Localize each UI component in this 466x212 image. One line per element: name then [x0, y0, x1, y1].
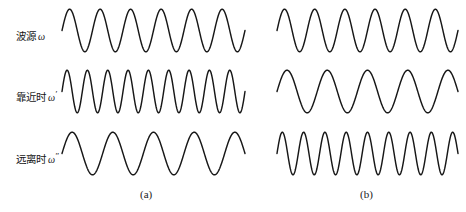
row-label-receding-text: 远离时	[16, 153, 47, 165]
row-label-approaching-symbol: ω′	[47, 92, 58, 103]
caption-b: (b)	[360, 188, 373, 200]
prime-glyph: ″	[55, 151, 59, 161]
row-label-receding: 远离时ω″	[16, 151, 59, 166]
prime-glyph: ′	[55, 89, 57, 99]
row-label-receding-symbol: ω″	[47, 154, 60, 165]
wave-trace-a2	[62, 69, 245, 114]
caption-a: (a)	[140, 188, 152, 200]
row-label-approaching-text: 靠近时	[16, 91, 47, 103]
wave-trace-a3	[62, 131, 245, 176]
row-label-source-text: 波源	[16, 30, 36, 42]
row-label-source-symbol: ω	[36, 31, 45, 42]
omega-glyph: ω	[38, 31, 45, 42]
wave-trace-b3	[277, 131, 458, 176]
wave-trace-a1	[62, 8, 245, 53]
row-label-source: 波源ω	[16, 28, 45, 43]
wave-trace-b1	[277, 8, 458, 53]
wave-trace-b2	[277, 69, 458, 114]
row-label-approaching: 靠近时ω′	[16, 89, 57, 104]
figure-canvas: 波源ω 靠近时ω′ 远离时ω″ (a) (b)	[0, 0, 466, 212]
